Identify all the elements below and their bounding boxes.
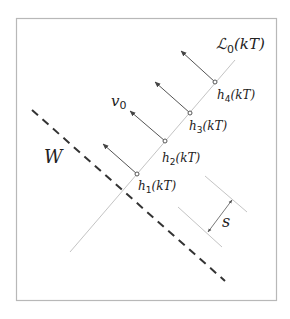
velocity-arrow-1	[103, 144, 137, 174]
point-label-h3: h3(kT)	[189, 119, 227, 135]
spacing-arrow-back	[208, 216, 220, 232]
point-label-h1: h1(kT)	[138, 179, 176, 195]
point-label-h4: h4(kT)	[217, 88, 255, 104]
curve-label: ℒ0(kT)	[216, 35, 265, 56]
velocity-label: v0	[111, 92, 126, 112]
diagram: ℒ0(kT) h4(kT) h3(kT) h2(kT) h1(kT) v0 W …	[0, 0, 290, 319]
spacing-line-upper	[205, 176, 247, 212]
point-h2	[163, 139, 167, 143]
point-h4	[213, 80, 217, 84]
velocity-arrow-4	[181, 51, 215, 82]
spacing-label: s	[222, 212, 230, 231]
point-label-h2: h2(kT)	[162, 151, 200, 167]
wall-dashed-line	[32, 110, 225, 281]
point-h3	[188, 111, 192, 115]
curve-line	[70, 60, 235, 252]
spacing-line-lower	[178, 207, 222, 247]
velocity-arrow-2	[130, 111, 165, 141]
wall-label: W	[44, 146, 64, 167]
velocity-arrow-3	[155, 82, 190, 113]
point-h1	[135, 172, 139, 176]
